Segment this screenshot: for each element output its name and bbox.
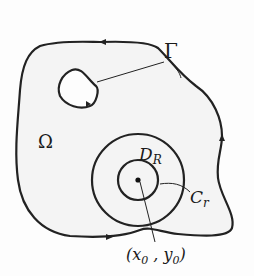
label-point-close: ) <box>179 245 186 264</box>
label-d: D <box>138 144 153 164</box>
label-point-mid: , y <box>148 245 173 264</box>
label-point: (x0 , y0) <box>126 245 186 267</box>
center-point <box>135 177 140 182</box>
label-gamma: Γ <box>164 39 178 63</box>
diagram-canvas: Γ Ω DR Cr (x0 , y0) <box>0 0 254 276</box>
diagram-svg: Γ Ω DR Cr (x0 , y0) <box>0 0 254 276</box>
label-point-open: (x <box>126 245 141 264</box>
label-point-x-sub: 0 <box>141 254 148 267</box>
label-c: C <box>190 187 203 207</box>
label-omega: Ω <box>38 131 53 152</box>
label-point-y-sub: 0 <box>173 254 180 267</box>
label-d-sub: R <box>152 153 162 167</box>
